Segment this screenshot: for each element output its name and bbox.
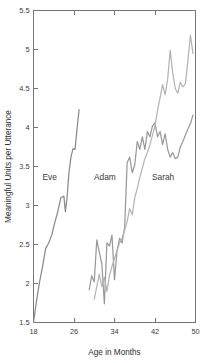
x-axis-tick-labels: 1826344250 bbox=[29, 327, 199, 336]
y-tick-label: 1.5 bbox=[19, 318, 29, 327]
y-axis-title: Meaningful Units per Utterance bbox=[4, 110, 13, 223]
series-label-adam: Adam bbox=[94, 172, 116, 182]
x-tick-label: 42 bbox=[151, 327, 159, 336]
chart-figure: 1826344250 1.522.533.544.555.5 EveAdamSa… bbox=[0, 0, 202, 363]
y-tick-label: 4.5 bbox=[19, 84, 29, 93]
y-tick-label: 2 bbox=[25, 279, 29, 288]
y-tick-label: 2.5 bbox=[19, 240, 29, 249]
y-axis-tick-labels: 1.522.533.544.555.5 bbox=[19, 6, 29, 327]
x-tick-label: 34 bbox=[110, 327, 118, 336]
y-tick-label: 5 bbox=[25, 45, 29, 54]
x-tick-label: 18 bbox=[29, 327, 37, 336]
y-tick-label: 5.5 bbox=[19, 6, 29, 15]
y-tick-label: 3 bbox=[25, 201, 29, 210]
series-label-sarah: Sarah bbox=[152, 172, 175, 182]
line-chart: 1826344250 1.522.533.544.555.5 EveAdamSa… bbox=[0, 0, 202, 363]
series-label-eve: Eve bbox=[42, 172, 57, 182]
x-tick-label: 50 bbox=[191, 327, 199, 336]
x-axis-title: Age in Months bbox=[88, 348, 140, 357]
y-tick-label: 4 bbox=[25, 123, 29, 132]
y-tick-label: 3.5 bbox=[19, 162, 29, 171]
x-tick-label: 26 bbox=[70, 327, 78, 336]
